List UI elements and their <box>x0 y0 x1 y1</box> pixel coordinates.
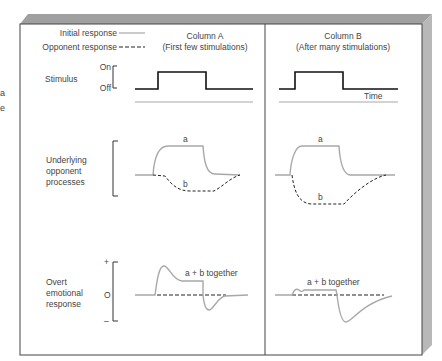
column-a-subtitle: (First few stimulations) <box>162 42 247 52</box>
emotional-label-line-3: response <box>46 299 81 309</box>
stimulus-off-label: Off <box>100 83 112 93</box>
legend-initial-label: Initial response <box>60 28 117 38</box>
emotional-zero-label: O <box>104 290 111 300</box>
emotional-minus-label: – <box>104 316 109 326</box>
frame-shadow-right <box>422 14 432 355</box>
emotional-label-line-2: emotional <box>46 288 83 298</box>
process-b-label-column-b: b <box>318 192 323 202</box>
opponent-process-diagram: Initial response Opponent response Colum… <box>0 0 442 361</box>
column-a-title: Column A <box>187 31 224 41</box>
emotional-plus-label: + <box>104 257 109 267</box>
legend-opponent-label: Opponent response <box>42 42 117 52</box>
sum-label-column-a: a + b together <box>185 268 238 278</box>
stimulus-label: Stimulus <box>45 74 78 84</box>
processes-label-line-3: processes <box>46 177 85 187</box>
column-b-title: Column B <box>324 31 362 41</box>
process-a-label-column-a: a <box>183 134 188 144</box>
sum-label-column-b: a + b together <box>307 277 360 287</box>
emotional-label-line-1: Overt <box>46 277 67 287</box>
processes-label-line-1: Underlying <box>46 155 87 165</box>
process-a-label-column-b: a <box>318 134 323 144</box>
column-b-subtitle: (After many stimulations) <box>296 42 390 52</box>
stimulus-on-label: On <box>100 62 112 72</box>
time-label: Time <box>364 91 383 101</box>
process-b-label-column-a: b <box>183 179 188 189</box>
processes-label-line-2: opponent <box>46 166 82 176</box>
frame-shadow-top <box>20 14 432 24</box>
